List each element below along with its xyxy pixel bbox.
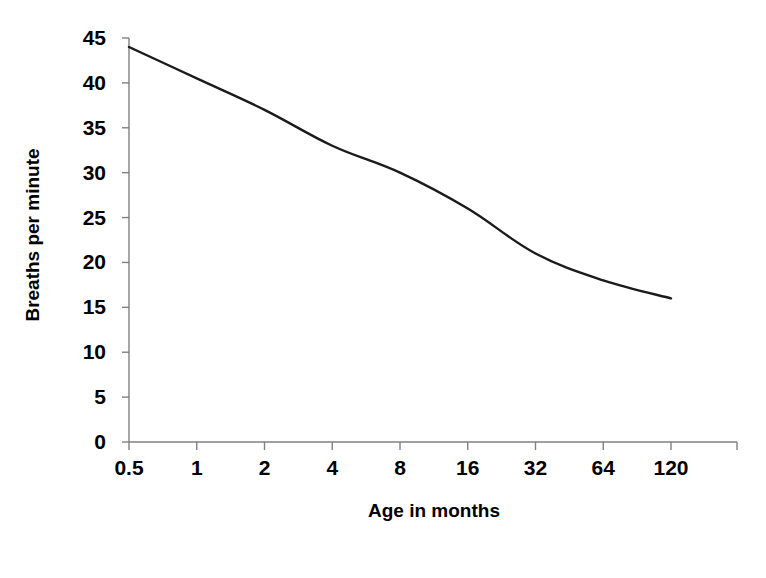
x-tick-label: 0.5	[94, 457, 164, 478]
x-tick-label: 4	[297, 457, 367, 478]
x-tick-label: 1	[162, 457, 232, 478]
y-tick-label: 15	[62, 296, 106, 317]
y-tick-label: 40	[62, 72, 106, 93]
x-tick-label: 16	[433, 457, 503, 478]
y-tick-label: 0	[62, 431, 106, 452]
x-tick-label: 64	[568, 457, 638, 478]
axis-group	[129, 38, 737, 442]
x-tick-label: 8	[365, 457, 435, 478]
y-tick-label: 25	[62, 207, 106, 228]
tick-marks	[122, 38, 737, 450]
x-tick-label: 32	[501, 457, 571, 478]
x-tick-label: 2	[230, 457, 300, 478]
y-tick-label: 30	[62, 162, 106, 183]
y-tick-label: 10	[62, 341, 106, 362]
y-tick-label: 45	[62, 27, 106, 48]
x-tick-label: 120	[636, 457, 706, 478]
chart-container: Breaths per minute Age in months 0510152…	[0, 0, 766, 578]
data-series-line	[129, 47, 671, 298]
y-tick-label: 5	[62, 386, 106, 407]
line-chart-plot	[0, 0, 766, 578]
y-tick-label: 20	[62, 251, 106, 272]
y-tick-label: 35	[62, 117, 106, 138]
